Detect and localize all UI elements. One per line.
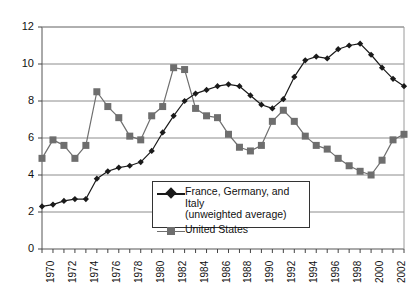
x-axis-label: 1990 <box>265 261 275 283</box>
chart-figure: 024681012 197019721974197619781980198219… <box>0 0 413 296</box>
y-axis-label: 12 <box>12 21 34 32</box>
legend-label-eu: France, Germany, and Italy (unweighted a… <box>185 186 305 221</box>
y-axis-label: 0 <box>12 243 34 254</box>
chart-legend: France, Germany, and Italy (unweighted a… <box>152 181 310 228</box>
x-axis-label: 1974 <box>90 261 100 283</box>
x-axis-label: 1984 <box>200 261 210 283</box>
x-axis-label: 1970 <box>46 261 56 283</box>
y-axis-label: 8 <box>12 95 34 106</box>
x-axis-label: 1982 <box>178 261 188 283</box>
legend-label-us: United States <box>185 224 248 236</box>
legend-label-us-line1: United States <box>185 223 248 235</box>
y-axis-label: 6 <box>12 132 34 143</box>
x-axis-label: 2000 <box>375 261 385 283</box>
x-axis-label: 1976 <box>112 261 122 283</box>
x-axis-label: 2002 <box>397 261 407 283</box>
x-axis-label: 1996 <box>331 261 341 283</box>
x-axis-label: 1988 <box>243 261 253 283</box>
x-axis-label: 1986 <box>222 261 232 283</box>
y-axis-label: 10 <box>12 58 34 69</box>
x-axis-label: 1978 <box>134 261 144 283</box>
x-axis-label: 1994 <box>309 261 319 283</box>
legend-item-united-states: United States <box>157 224 305 237</box>
line-chart-canvas <box>0 0 413 296</box>
square-marker-icon <box>157 226 185 237</box>
legend-label-eu-line2: (unweighted average) <box>185 208 287 220</box>
y-axis-label: 2 <box>12 206 34 217</box>
legend-item-france-germany-italy: France, Germany, and Italy (unweighted a… <box>157 186 305 221</box>
diamond-marker-icon <box>157 188 185 199</box>
legend-label-eu-line1: France, Germany, and Italy <box>185 185 289 209</box>
y-axis-label: 4 <box>12 169 34 180</box>
x-axis-label: 1980 <box>156 261 166 283</box>
x-axis-label: 1998 <box>353 261 363 283</box>
x-axis-label: 1972 <box>68 261 78 283</box>
x-axis-label: 1992 <box>287 261 297 283</box>
